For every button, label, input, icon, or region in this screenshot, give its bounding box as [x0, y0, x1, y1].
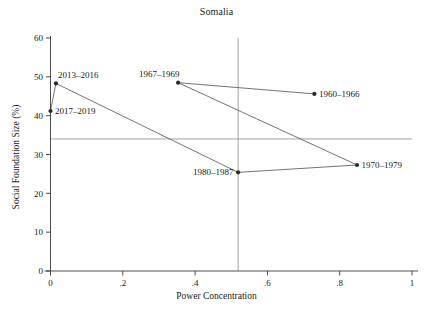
data-point-label: 1960–1966 [319, 89, 360, 99]
y-tick-label: 0 [39, 266, 44, 276]
series-path-group [51, 83, 358, 173]
x-tick-label: .6 [264, 278, 271, 288]
y-tick-label: 60 [34, 33, 44, 43]
data-point-marker[interactable] [236, 170, 240, 174]
x-tick-label: .8 [336, 278, 343, 288]
x-tick-label: .4 [192, 278, 199, 288]
point-labels-group: 1960–19661967–19691970–19791980–19872013… [55, 69, 403, 177]
data-point-label: 1980–1987 [193, 167, 234, 177]
y-tick-label: 40 [34, 111, 44, 121]
y-tick-label: 20 [34, 189, 44, 199]
data-point-marker[interactable] [48, 109, 52, 113]
y-tick-label: 30 [34, 150, 44, 160]
axes-group [45, 36, 419, 276]
data-point-marker[interactable] [355, 163, 359, 167]
y-tick-label: 10 [34, 227, 44, 237]
data-point-label: 1970–1979 [362, 160, 403, 170]
reference-lines-group [51, 38, 413, 271]
x-tick-label: 1 [410, 278, 415, 288]
chart-container: Somalia Social Foundation Size (%) Power… [0, 0, 433, 310]
trajectory-path [51, 83, 358, 173]
data-point-marker[interactable] [312, 92, 316, 96]
plot-area: 01020304050600.2.4.6.81 1960–19661967–19… [0, 0, 433, 310]
data-point-label: 2013–2016 [58, 70, 99, 80]
x-tick-label: 0 [48, 278, 53, 288]
data-point-label: 1967–1969 [139, 69, 180, 79]
data-point-label: 2017–2019 [55, 106, 96, 116]
x-tick-label: .2 [119, 278, 126, 288]
data-point-marker[interactable] [176, 81, 180, 85]
data-point-marker[interactable] [54, 81, 58, 85]
y-tick-label: 50 [34, 72, 44, 82]
